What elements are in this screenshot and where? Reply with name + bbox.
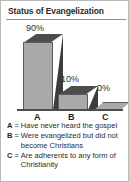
bar-a: [23, 34, 63, 110]
page-title: Status of Evangelization: [8, 6, 126, 16]
legend-key-a: A: [7, 121, 14, 131]
chart-baseline: [17, 109, 123, 111]
bar-a-front-face: [23, 42, 53, 110]
evangelization-status-card: Status of Evangelization 90% 10% 0% A B …: [0, 0, 129, 182]
chart-legend: A = Have never heard the gospel B = Were…: [7, 121, 127, 170]
legend-item-a: A = Have never heard the gospel: [7, 121, 127, 131]
bar-value-label-c: 0%: [97, 83, 110, 93]
legend-item-b: B = Were evangelized but did not become …: [7, 131, 127, 150]
legend-text-c: Are adherents to any form of Christianit…: [21, 151, 127, 170]
legend-key-c: C: [7, 151, 14, 161]
bar-b-front-face: [58, 94, 88, 110]
legend-text-a: Have never heard the gospel: [21, 121, 127, 131]
bar-value-label-a: 90%: [26, 23, 44, 33]
bar-value-label-b: 10%: [61, 74, 79, 84]
legend-item-c: C = Are adherents to any form of Christi…: [7, 151, 127, 170]
bar-chart-plot: 90% 10% 0% A B C: [1, 20, 129, 115]
bar-b: [58, 86, 98, 110]
legend-text-b: Were evangelized but did not become Chri…: [21, 131, 127, 150]
legend-key-b: B: [7, 131, 14, 141]
